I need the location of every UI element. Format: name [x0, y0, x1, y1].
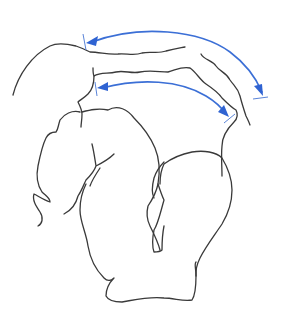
lower-arrow	[95, 82, 235, 123]
lower-arrow-head-left	[97, 82, 108, 91]
line-drawing-diagram	[0, 0, 284, 334]
upper-arrow-head-right	[254, 84, 263, 96]
lower-body-contour	[80, 184, 196, 302]
upper-arrow-head-left	[86, 36, 98, 46]
lower-contour	[78, 76, 94, 127]
lower-arrow-start-tick	[95, 82, 97, 96]
upper-arrow	[83, 31, 268, 99]
inner-fold-line	[64, 144, 114, 214]
left-lobe	[33, 111, 80, 226]
lower-arrow-arc	[102, 82, 226, 114]
inner-wavy-contour	[93, 67, 237, 176]
upper-arrow-arc	[92, 31, 262, 92]
upper-arrow-end-tick	[253, 97, 268, 99]
right-lobe	[160, 151, 232, 276]
upper-arrow-start-tick	[83, 34, 86, 50]
